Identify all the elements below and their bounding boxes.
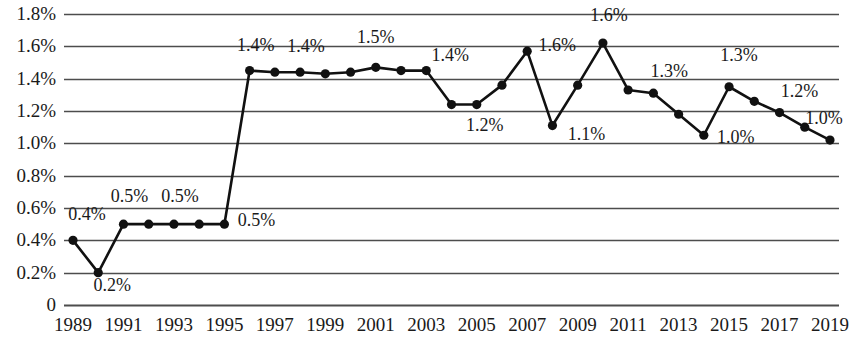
data-point-label: 1.3% [714, 46, 764, 64]
data-point-marker [296, 68, 305, 77]
data-point-marker [447, 100, 456, 109]
data-point-label: 1.0% [711, 128, 761, 146]
data-point-marker [523, 47, 532, 56]
data-point-marker [573, 81, 582, 90]
data-point-marker [649, 89, 658, 98]
data-point-marker [422, 66, 431, 75]
y-axis-tick-label: 0.6% [16, 198, 56, 217]
data-point-label: 1.0% [799, 109, 849, 127]
data-point-label: 1.4% [281, 37, 331, 55]
data-point-marker [169, 220, 178, 229]
data-point-label: 1.4% [231, 36, 281, 54]
x-axis-tick-label: 2019 [800, 315, 853, 334]
data-point-marker [346, 68, 355, 77]
data-point-marker [472, 100, 481, 109]
data-point-label: 0.5% [155, 187, 205, 205]
data-point-marker [371, 63, 380, 72]
data-point-marker [195, 220, 204, 229]
y-axis-tick-label: 1.8% [16, 4, 56, 23]
data-markers [68, 39, 834, 278]
data-point-marker [144, 220, 153, 229]
y-axis-tick-label: 0 [47, 295, 57, 314]
data-point-label: 0.2% [87, 276, 137, 294]
data-line [73, 43, 830, 273]
data-point-label: 1.2% [775, 82, 825, 100]
y-axis-tick-label: 1.4% [16, 69, 56, 88]
data-point-marker [396, 66, 405, 75]
data-point-label: 1.6% [532, 36, 582, 54]
y-axis-tick-label: 0.2% [16, 263, 56, 282]
data-point-label: 1.4% [425, 46, 475, 64]
y-axis-tick-label: 1.6% [16, 36, 56, 55]
data-point-marker [548, 121, 557, 130]
data-point-label: 1.1% [561, 125, 611, 143]
y-axis-tick-label: 0.4% [16, 230, 56, 249]
data-point-label: 0.4% [62, 205, 112, 223]
data-point-marker [674, 110, 683, 119]
data-point-marker [119, 220, 128, 229]
data-point-marker [775, 108, 784, 117]
data-point-marker [598, 39, 607, 48]
data-point-label: 1.3% [644, 62, 694, 80]
data-point-marker [825, 136, 834, 145]
data-point-marker [750, 97, 759, 106]
data-point-label: 1.6% [584, 6, 634, 24]
data-point-marker [321, 69, 330, 78]
data-point-marker [220, 220, 229, 229]
data-point-marker [624, 85, 633, 94]
data-point-marker [270, 68, 279, 77]
data-point-label: 1.5% [351, 28, 401, 46]
data-point-marker [699, 131, 708, 140]
data-point-marker [497, 81, 506, 90]
data-point-label: 1.2% [460, 116, 510, 134]
data-point-marker [724, 82, 733, 91]
data-point-marker [245, 66, 254, 75]
data-point-marker [68, 236, 77, 245]
data-point-label: 0.5% [231, 211, 281, 229]
y-axis-tick-label: 1.2% [16, 101, 56, 120]
data-point-label: 0.5% [104, 187, 154, 205]
y-axis-tick-label: 1.0% [16, 133, 56, 152]
y-axis-tick-label: 0.8% [16, 166, 56, 185]
